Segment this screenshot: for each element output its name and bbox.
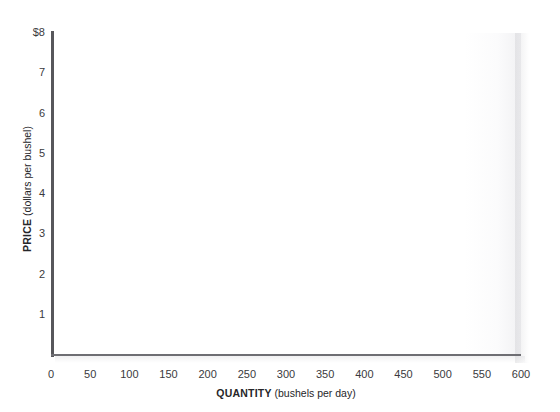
x-axis-title: QUANTITY (bushels per day) [51, 387, 521, 399]
y-axis-title-bold: PRICE [21, 219, 33, 252]
x-axis-title-bold: QUANTITY [216, 387, 271, 399]
x-tick-label: 600 [496, 369, 546, 380]
x-axis-tick-labels: 050100150200250300350400450500550600 [0, 0, 560, 412]
chart-figure: 1234567$8 050100150200250300350400450500… [0, 0, 560, 412]
y-axis-title: PRICE (dollars per bushel) [21, 89, 33, 289]
x-axis-title-units: (bushels per day) [272, 387, 356, 399]
y-axis-title-units: (dollars per bushel) [21, 126, 33, 219]
